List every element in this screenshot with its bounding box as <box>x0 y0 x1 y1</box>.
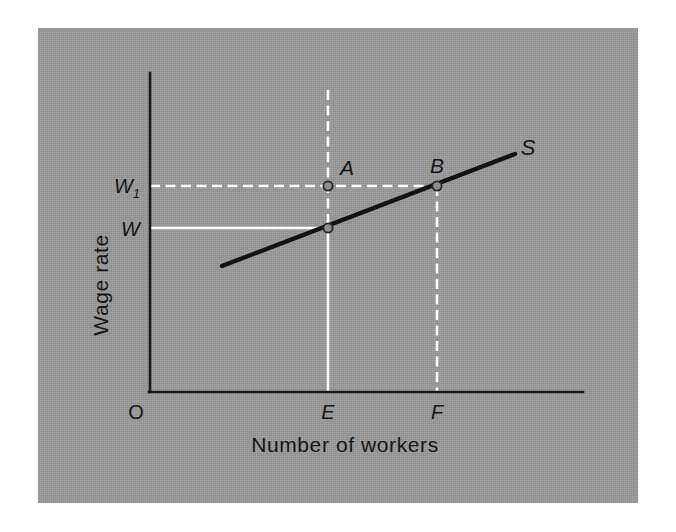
figure-root: Wage rate Number of workers O W1 W E F A… <box>0 0 676 532</box>
marker-point-c <box>323 223 332 232</box>
point-label-a: A <box>338 156 354 179</box>
y-tick-w1-subscript: 1 <box>133 186 140 201</box>
guide-lines <box>150 90 438 392</box>
point-label-b: B <box>430 154 444 177</box>
curve-label-s: S <box>521 135 536 160</box>
marker-point-b <box>432 181 441 190</box>
y-tick-w1-base: W <box>114 175 135 197</box>
marker-point-a <box>323 181 332 190</box>
supply-curve-chart: Wage rate Number of workers O W1 W E F A… <box>0 0 676 532</box>
x-tick-label-e: E <box>321 401 335 423</box>
x-axis-title: Number of workers <box>251 433 439 456</box>
x-tick-label-f: F <box>431 401 445 423</box>
chart-axes <box>149 73 583 392</box>
origin-label: O <box>128 401 144 423</box>
y-tick-label-w: W <box>121 218 142 240</box>
supply-curve-group <box>222 154 515 266</box>
y-tick-label-w1: W1 <box>114 175 140 201</box>
supply-curve-s <box>222 154 515 266</box>
chart-text-labels: Wage rate Number of workers O W1 W E F A… <box>89 135 536 456</box>
y-axis-title: Wage rate <box>89 234 112 336</box>
